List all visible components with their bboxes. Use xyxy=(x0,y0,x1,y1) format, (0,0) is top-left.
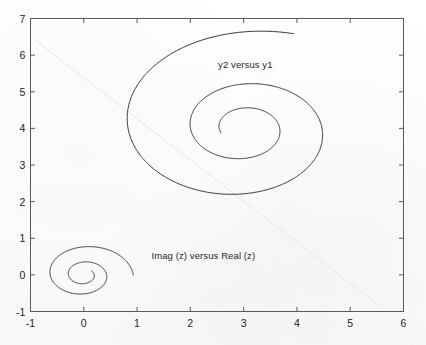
x-axis-tick-label: 6 xyxy=(401,317,407,329)
x-axis-tick-label: 5 xyxy=(347,317,353,329)
curve-annotation-label: Imag (z) versus Real (z) xyxy=(151,250,255,261)
x-axis-tick-label: 2 xyxy=(187,317,193,329)
y-axis-tick-label: 5 xyxy=(4,86,26,98)
x-axis-tick-label: 3 xyxy=(241,317,247,329)
curve-annotation-label: y2 versus y1 xyxy=(218,59,273,70)
axes-frame xyxy=(31,19,404,312)
plot-svg xyxy=(0,0,426,345)
y-axis-tick-label: 6 xyxy=(4,49,26,61)
y-axis-tick-label: 3 xyxy=(4,159,26,171)
series-curve-0 xyxy=(50,247,133,294)
y-axis-tick-label: 2 xyxy=(4,196,26,208)
y-axis-tick-label: 1 xyxy=(4,232,26,244)
figure-canvas: -10123456-101234567 y2 versus y1Imag (z)… xyxy=(0,0,426,345)
y-axis-tick-label: -1 xyxy=(4,306,26,318)
series-curve-1 xyxy=(127,31,322,194)
x-axis-tick-label: -1 xyxy=(26,317,36,329)
x-axis-tick-label: 0 xyxy=(81,317,87,329)
x-axis-tick-label: 1 xyxy=(134,317,140,329)
y-axis-tick-label: 7 xyxy=(4,13,26,25)
x-axis-tick-label: 4 xyxy=(294,317,300,329)
scan-crease-artifact xyxy=(33,39,379,306)
y-axis-tick-label: 0 xyxy=(4,269,26,281)
y-axis-tick-label: 4 xyxy=(4,122,26,134)
